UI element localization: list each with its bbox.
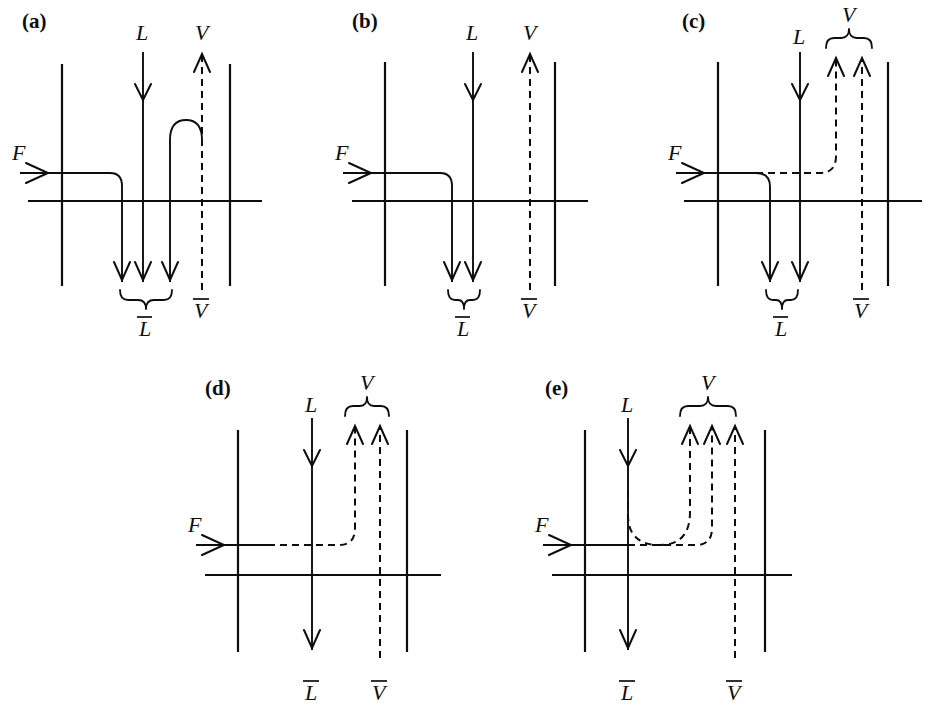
panel-b-feed-line xyxy=(343,173,452,282)
panel-e-bottom-label-V: V xyxy=(727,680,743,705)
panel-c-feed-label: F xyxy=(667,140,682,165)
panel-b-bottom-brace xyxy=(448,290,480,309)
panel-d-top-label-V: V xyxy=(360,370,376,395)
panel-b-bottom-label-L: L xyxy=(456,316,469,341)
panel-c-label: (c) xyxy=(682,9,705,33)
panel-b: (b) F L V L V xyxy=(334,9,588,341)
panel-b-feed-label: F xyxy=(334,140,349,165)
panel-a-bottom-brace xyxy=(120,290,172,309)
panel-c-bottom-label-L: L xyxy=(774,316,787,341)
panel-d-bottom-label-L: L xyxy=(304,680,317,705)
diagram-canvas: (a) F L V L V (b) xyxy=(0,0,931,718)
panel-d-bottom-label-V: V xyxy=(372,680,388,705)
panel-b-top-label-V: V xyxy=(523,20,539,45)
panel-a-top-label-V: V xyxy=(195,20,211,45)
panel-a-label: (a) xyxy=(22,9,47,33)
panel-a-bottom-label-L: L xyxy=(138,316,151,341)
panel-e: (e) F L V L V xyxy=(534,370,792,705)
panel-c-top-label-L: L xyxy=(792,24,805,49)
panel-b-label: (b) xyxy=(352,9,378,33)
panel-b-top-label-L: L xyxy=(465,20,478,45)
panel-d-top-label-L: L xyxy=(304,392,317,417)
panel-d-label: (d) xyxy=(205,376,231,400)
panel-c-top-label-V: V xyxy=(842,2,858,27)
panel-b-bottom-label-V: V xyxy=(522,298,538,323)
panel-c-top-brace xyxy=(826,29,872,48)
panel-a-top-label-L: L xyxy=(135,20,148,45)
panel-a-feed-label: F xyxy=(11,140,26,165)
panel-a-feed-line xyxy=(20,173,122,282)
panel-e-label: (e) xyxy=(545,376,568,400)
panel-d: (d) F L V L V xyxy=(187,370,441,705)
panel-a: (a) F L V L V xyxy=(11,9,262,341)
panel-d-top-brace xyxy=(345,397,389,416)
panel-e-top-label-L: L xyxy=(620,392,633,417)
figure-root: (a) F L V L V (b) xyxy=(0,0,931,718)
panel-e-feed-label: F xyxy=(534,512,549,537)
panel-c-feed-vapor-branch xyxy=(756,58,836,173)
panel-c-bottom-brace xyxy=(766,290,798,309)
panel-a-bottom-label-V: V xyxy=(194,298,210,323)
panel-e-top-label-V: V xyxy=(701,370,717,395)
panel-c-bottom-label-V: V xyxy=(854,298,870,323)
panel-e-feed-vapor-branch xyxy=(628,426,712,545)
panel-c: (c) F L V L V xyxy=(667,2,922,341)
panel-e-recirculation-curve xyxy=(628,426,690,545)
panel-d-feed-label: F xyxy=(187,512,202,537)
panel-e-top-brace xyxy=(680,397,736,416)
panel-e-bottom-label-L: L xyxy=(620,680,633,705)
